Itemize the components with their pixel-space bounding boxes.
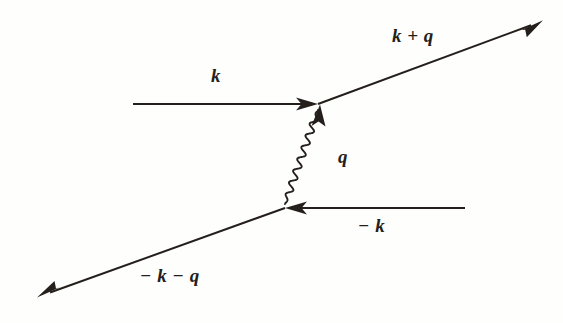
arrowhead-photon-at-top-vertex — [312, 105, 326, 127]
feynman-diagram-svg — [0, 0, 563, 323]
momentum-label-k: k — [211, 66, 221, 85]
arrowhead-outgoing-electron-k-plus-q — [522, 20, 544, 37]
momentum-label-k-plus-q: k + q — [392, 26, 434, 45]
feynman-diagram-canvas: k + q k q − k − k − q — [0, 0, 563, 323]
momentum-label-q: q — [338, 147, 348, 166]
momentum-label-minus-k: − k — [358, 216, 385, 235]
momentum-label-minus-k-minus-q: − k − q — [140, 266, 200, 285]
